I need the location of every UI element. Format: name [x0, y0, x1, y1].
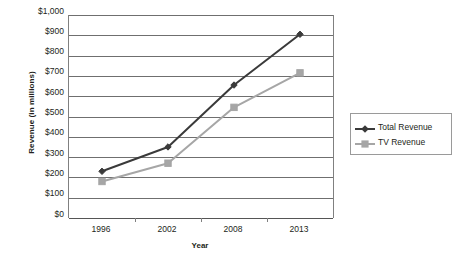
series-line	[102, 34, 300, 171]
diamond-marker-icon	[354, 121, 376, 133]
square-marker-icon	[354, 136, 376, 148]
y-axis-tick-label: $0	[16, 210, 64, 219]
y-axis-tick-label: $600	[16, 88, 64, 97]
y-axis-tick-label: $700	[16, 67, 64, 76]
series-2	[99, 70, 303, 185]
x-axis-tick-label: 2013	[269, 224, 329, 234]
series-1	[99, 31, 303, 174]
legend-item[interactable]: Total Revenue	[354, 119, 449, 134]
legend-item[interactable]: TV Revenue	[354, 134, 449, 149]
series-line	[102, 73, 300, 182]
data-point-marker	[297, 70, 303, 76]
legend-label: Total Revenue	[378, 122, 432, 132]
x-axis-tick	[135, 218, 136, 222]
y-axis-tick-label: $900	[16, 27, 64, 36]
y-axis-tick-labels: $0$100$200$300$400$500$600$700$800$900$1…	[16, 11, 64, 219]
data-point-marker	[165, 160, 171, 166]
x-axis-tick-labels: 1996200220082013	[68, 224, 332, 238]
y-axis-tick-label: $300	[16, 149, 64, 158]
x-axis-tick-label: 2002	[137, 224, 197, 234]
y-axis-tick-label: $800	[16, 47, 64, 56]
plot-area	[68, 15, 334, 218]
x-axis-tick	[201, 218, 202, 222]
y-axis-tick-label: $500	[16, 108, 64, 117]
legend-label: TV Revenue	[378, 137, 425, 147]
x-axis-title: Year	[68, 241, 332, 250]
chart-legend: Total RevenueTV Revenue	[350, 113, 452, 155]
y-axis-tick-label: $400	[16, 128, 64, 137]
revenue-line-chart: Revenue (in millions) $0$100$200$300$400…	[0, 0, 458, 261]
x-axis-tick-label: 1996	[71, 224, 131, 234]
y-axis-tick-label: $100	[16, 189, 64, 198]
series-layer	[69, 15, 333, 218]
y-axis-tick-label: $200	[16, 169, 64, 178]
data-point-marker	[99, 168, 105, 174]
data-point-marker	[99, 178, 105, 184]
x-axis-tick	[267, 218, 268, 222]
x-axis-tick-label: 2008	[203, 224, 263, 234]
y-axis-tick-label: $1,000	[16, 7, 64, 16]
data-point-marker	[231, 104, 237, 110]
